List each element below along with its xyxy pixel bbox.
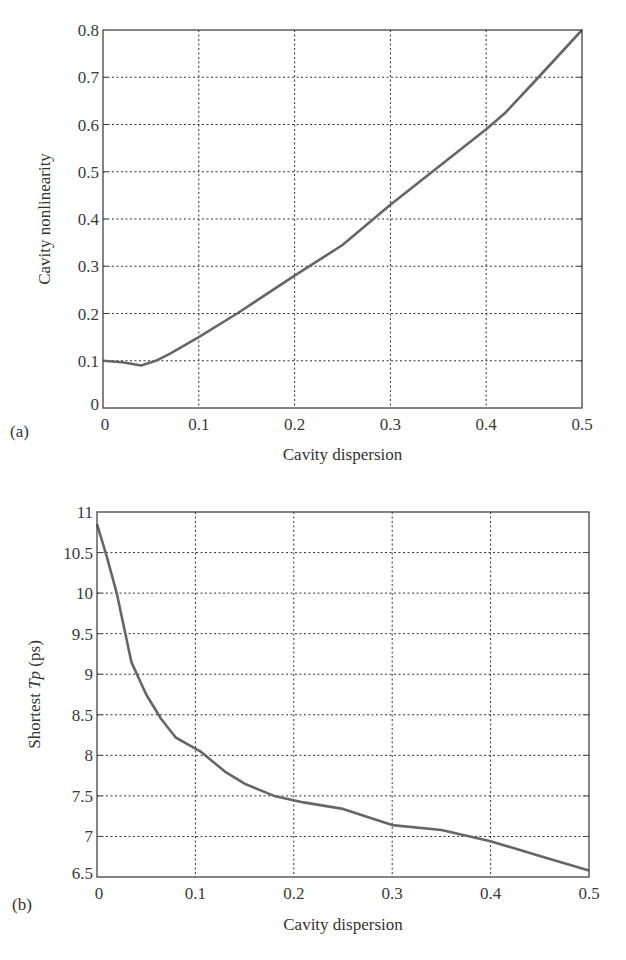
x-tick-label: 0.2	[284, 415, 305, 434]
y-tick-label: 10.5	[63, 544, 93, 563]
x-tick-label: 0.4	[480, 884, 502, 903]
y-tick-label: 7.5	[72, 787, 93, 806]
y-axis-label-b-prefix: Shortest	[25, 689, 44, 749]
y-tick-label: 7	[85, 827, 94, 846]
y-tick-label: 0.6	[78, 116, 99, 135]
figure: 00.10.20.30.40.5 00.10.20.30.40.50.60.70…	[0, 0, 626, 960]
x-ticks-b: 00.10.20.30.40.5	[95, 884, 600, 903]
x-axis-label-b: Cavity dispersion	[283, 915, 403, 934]
x-tick-label: 0.3	[382, 884, 403, 903]
x-tick-label: 0	[101, 415, 110, 434]
x-tick-label: 0.2	[283, 884, 304, 903]
y-tick-label: 0.5	[78, 163, 99, 182]
plot-frame-b	[97, 512, 589, 877]
chart-a: 00.10.20.30.40.5 00.10.20.30.40.50.60.70…	[10, 21, 593, 464]
series-line-shortest-tp	[97, 524, 589, 870]
y-tick-label: 8.5	[72, 706, 93, 725]
y-tick-label: 0.4	[78, 210, 100, 229]
y-axis-label-b: Shortest Tp (ps)	[25, 640, 44, 749]
x-tick-label: 0.1	[188, 415, 209, 434]
y-tick-label: 11	[77, 503, 93, 522]
y-tick-label: 8	[85, 746, 94, 765]
x-tick-label: 0	[95, 884, 104, 903]
y-tick-label: 10	[76, 584, 93, 603]
panel-label-a: (a)	[10, 422, 29, 441]
x-ticks-a: 00.10.20.30.40.5	[101, 415, 593, 434]
y-ticks-b: 6.577.588.599.51010.511	[63, 503, 93, 883]
y-tick-label: 0.8	[78, 21, 99, 40]
x-tick-label: 0.1	[185, 884, 206, 903]
y-ticks-a: 00.10.20.30.40.50.60.70.8	[78, 21, 100, 414]
y-axis-label-a: Cavity nonlinearity	[35, 153, 54, 285]
y-axis-label-b-suffix: (ps)	[25, 640, 44, 671]
grid-b	[97, 512, 589, 877]
y-tick-label: 0.3	[78, 257, 99, 276]
panel-label-b: (b)	[12, 895, 32, 914]
x-tick-label: 0.5	[571, 415, 592, 434]
y-tick-label: 6.5	[72, 864, 93, 883]
x-tick-label: 0.4	[476, 415, 498, 434]
y-tick-label: 0.1	[78, 352, 99, 371]
y-tick-label: 9.5	[72, 625, 93, 644]
chart-b: 00.10.20.30.40.5 6.577.588.599.51010.511…	[12, 503, 600, 934]
x-axis-label-a: Cavity dispersion	[283, 445, 403, 464]
series-line-nonlinearity	[103, 30, 582, 366]
y-tick-label: 0	[91, 395, 100, 414]
y-tick-label: 9	[85, 665, 94, 684]
x-tick-label: 0.5	[578, 884, 599, 903]
y-axis-label-b-italic: Tp	[25, 671, 44, 689]
y-tick-label: 0.2	[78, 305, 99, 324]
x-tick-label: 0.3	[380, 415, 401, 434]
y-tick-label: 0.7	[78, 68, 100, 87]
